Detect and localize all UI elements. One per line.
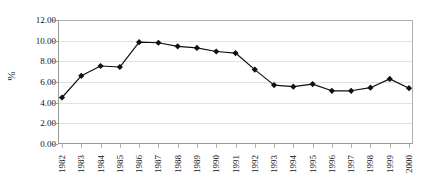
x-axis-tick-mark — [158, 144, 159, 148]
x-axis-tick-label: 1998 — [365, 133, 375, 173]
x-axis-tick-label: 1991 — [231, 133, 241, 173]
y-axis-tick-mark — [53, 103, 58, 104]
y-axis-tick-label: 8.00 — [12, 57, 56, 66]
gridline — [59, 82, 412, 83]
x-axis-tick-label: 1995 — [308, 133, 318, 173]
y-axis-tick-label: 6.00 — [12, 78, 56, 87]
y-axis-tick-label: 10.00 — [12, 37, 56, 46]
y-axis-tick-label: 2.00 — [12, 119, 56, 128]
x-axis-tick-label: 1993 — [269, 133, 279, 173]
x-axis-tick-mark — [139, 144, 140, 148]
x-axis-tick-label: 1984 — [96, 133, 106, 173]
x-axis-tick-mark — [332, 144, 333, 148]
y-axis-tick-mark — [53, 123, 58, 124]
x-axis-tick-labels: 1982198319841985198619871988198919901991… — [0, 148, 424, 191]
x-axis-tick-mark — [101, 144, 102, 148]
y-axis-tick-mark — [53, 41, 58, 42]
gridline — [59, 61, 412, 62]
scan-artifact-text — [8, 1, 416, 10]
x-axis-tick-label: 1983 — [76, 133, 86, 173]
x-axis-tick-label: 1988 — [173, 133, 183, 173]
x-axis-tick-mark — [370, 144, 371, 148]
x-axis-tick-label: 1986 — [134, 133, 144, 173]
x-axis-tick-label: 1990 — [211, 133, 221, 173]
x-axis-tick-mark — [351, 144, 352, 148]
y-axis-tick-label: 12.00 — [12, 16, 56, 25]
x-axis-tick-mark — [236, 144, 237, 148]
x-axis-tick-mark — [178, 144, 179, 148]
x-axis-tick-mark — [274, 144, 275, 148]
x-axis-tick-mark — [120, 144, 121, 148]
gridline — [59, 123, 412, 124]
x-axis-tick-mark — [255, 144, 256, 148]
x-axis-tick-mark — [62, 144, 63, 148]
gridline — [59, 41, 412, 42]
x-axis-tick-label: 1987 — [153, 133, 163, 173]
x-axis-tick-label: 1996 — [327, 133, 337, 173]
y-axis-tick-mark — [53, 61, 58, 62]
x-axis-tick-label: 1985 — [115, 133, 125, 173]
x-axis-tick-label: 1982 — [57, 133, 67, 173]
x-axis-tick-mark — [81, 144, 82, 148]
y-axis-tick-mark — [53, 144, 58, 145]
x-axis-tick-mark — [313, 144, 314, 148]
x-axis-tick-mark — [216, 144, 217, 148]
x-axis-tick-mark — [293, 144, 294, 148]
x-axis-tick-label: 2000 — [404, 133, 414, 173]
x-axis-tick-label: 1994 — [288, 133, 298, 173]
gridline — [59, 103, 412, 104]
plot-area — [58, 20, 413, 144]
x-axis-tick-label: 1989 — [192, 133, 202, 173]
y-axis-tick-mark — [53, 20, 58, 21]
x-axis-tick-mark — [390, 144, 391, 148]
x-axis-tick-label: 1997 — [346, 133, 356, 173]
x-axis-tick-mark — [409, 144, 410, 148]
x-axis-tick-label: 1999 — [385, 133, 395, 173]
y-axis-tick-mark — [53, 82, 58, 83]
chart-figure: % 0.002.004.006.008.0010.0012.00 1982198… — [0, 0, 424, 191]
x-axis-tick-label: 1992 — [250, 133, 260, 173]
x-axis-tick-mark — [197, 144, 198, 148]
y-axis-tick-label: 4.00 — [12, 99, 56, 108]
